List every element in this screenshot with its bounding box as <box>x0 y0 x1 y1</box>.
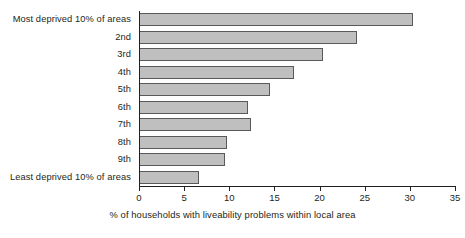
bar <box>139 66 294 79</box>
x-tick-label: 35 <box>443 192 465 203</box>
category-label: 8th <box>118 137 131 147</box>
bar-fill <box>139 136 227 149</box>
bar-fill <box>139 48 323 61</box>
x-tick-mark <box>455 187 456 191</box>
category-label: Least deprived 10% of areas <box>10 172 131 182</box>
bar <box>139 83 270 96</box>
category-axis: Most deprived 10% of areas2nd3rd4th5th6t… <box>0 11 135 186</box>
y-axis-line <box>139 11 140 187</box>
category-label: 7th <box>118 119 131 129</box>
bar-fill <box>139 66 294 79</box>
x-tick-mark <box>139 187 140 191</box>
bar-fill <box>139 101 248 114</box>
bar-fill <box>139 171 199 184</box>
bar <box>139 136 227 149</box>
bar <box>139 31 357 44</box>
x-tick-label: 10 <box>217 192 241 203</box>
x-tick-mark <box>410 187 411 191</box>
x-tick-label: 5 <box>172 192 196 203</box>
category-label: Most deprived 10% of areas <box>13 14 131 24</box>
category-label: 6th <box>118 102 131 112</box>
x-tick-mark <box>320 187 321 191</box>
x-tick-label: 15 <box>262 192 286 203</box>
category-label: 4th <box>118 67 131 77</box>
x-tick-label: 25 <box>353 192 377 203</box>
category-label: 9th <box>118 154 131 164</box>
x-axis-title: % of households with liveability problem… <box>0 209 465 220</box>
bar-fill <box>139 31 357 44</box>
x-tick-mark <box>229 187 230 191</box>
x-axis-line <box>139 186 456 187</box>
category-label: 5th <box>118 84 131 94</box>
bar <box>139 101 248 114</box>
bar <box>139 48 323 61</box>
x-tick-label: 0 <box>127 192 151 203</box>
bar <box>139 153 225 166</box>
category-label: 3rd <box>117 49 131 59</box>
x-tick-mark <box>274 187 275 191</box>
bar-fill <box>139 153 225 166</box>
plot-area <box>139 11 455 186</box>
bar-fill <box>139 118 251 131</box>
x-tick-mark <box>184 187 185 191</box>
bar <box>139 118 251 131</box>
x-tick-mark <box>365 187 366 191</box>
bar <box>139 171 199 184</box>
bar-fill <box>139 13 413 26</box>
category-label: 2nd <box>115 32 131 42</box>
bar <box>139 13 413 26</box>
bar-fill <box>139 83 270 96</box>
x-tick-label: 30 <box>398 192 422 203</box>
x-tick-label: 20 <box>308 192 332 203</box>
bar-chart: Most deprived 10% of areas2nd3rd4th5th6t… <box>0 0 465 238</box>
